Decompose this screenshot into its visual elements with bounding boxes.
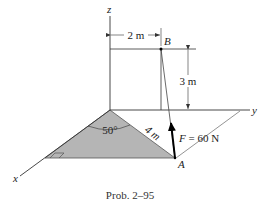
z-axis-label: z [106,3,112,15]
force-arrow [171,123,175,158]
dimension-2m-label: 2 m [128,29,145,41]
point-A-dot [174,157,176,159]
x-axis-label: x [12,172,18,184]
y-axis-label: y [251,104,257,116]
force-value: = 60 N [186,132,219,144]
problem-diagram: 2 m 3 m 50° 4 m F = 60 N B A z y x Prob.… [0,0,261,211]
point-B-dot [160,48,163,51]
point-B-label: B [164,35,171,47]
figure-caption: Prob. 2–95 [106,189,155,201]
point-A-label: A [177,158,185,170]
force-label: F = 60 N [178,132,219,144]
dimension-3m-label: 3 m [180,75,197,87]
angle-label: 50° [102,124,117,136]
